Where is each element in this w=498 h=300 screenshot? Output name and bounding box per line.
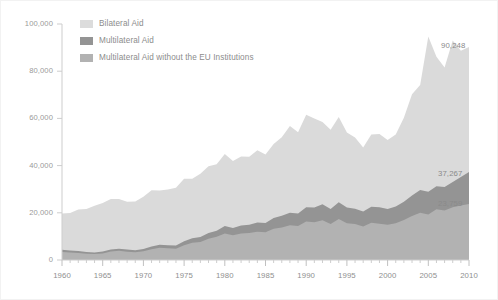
x-tick-label: 2005 bbox=[408, 271, 448, 280]
area-layers bbox=[62, 37, 469, 260]
legend-swatch-bilateral-aid bbox=[80, 20, 93, 28]
x-tick-label: 1975 bbox=[164, 271, 204, 280]
y-tick-label: 80,000 bbox=[1, 66, 53, 75]
value-label-multilateral: 37,267 bbox=[438, 169, 462, 178]
legend-item-multilateral-aid: Multilateral Aid bbox=[80, 34, 254, 47]
x-tick-label: 1990 bbox=[286, 271, 326, 280]
x-tick-label: 1970 bbox=[123, 271, 163, 280]
x-tick-label: 1995 bbox=[327, 271, 367, 280]
legend-swatch-multilateral-aid-without-eu bbox=[80, 54, 93, 62]
value-label-multilateral-no-eu: 23,759 bbox=[438, 199, 462, 208]
legend-label-multilateral-aid: Multilateral Aid bbox=[99, 36, 154, 46]
legend-item-multilateral-aid-without-eu: Multilateral Aid without the EU Institut… bbox=[80, 51, 254, 64]
legend-swatch-multilateral-aid bbox=[80, 37, 93, 45]
y-tick-label: 40,000 bbox=[1, 161, 53, 170]
y-tick-label: 20,000 bbox=[1, 208, 53, 217]
x-axis-major-ticks bbox=[62, 260, 469, 266]
x-tick-label: 1965 bbox=[83, 271, 123, 280]
y-axis-ticks bbox=[57, 24, 62, 260]
y-tick-label: 60,000 bbox=[1, 113, 53, 122]
x-tick-label: 1985 bbox=[246, 271, 286, 280]
legend-label-bilateral-aid: Bilateral Aid bbox=[99, 19, 144, 29]
legend-item-bilateral-aid: Bilateral Aid bbox=[80, 17, 254, 30]
x-tick-label: 2000 bbox=[368, 271, 408, 280]
y-tick-label: 0 bbox=[1, 255, 53, 264]
value-label-total: 90,248 bbox=[441, 41, 465, 50]
chart-figure: Bilateral Aid Multilateral Aid Multilate… bbox=[0, 0, 498, 300]
y-tick-label: 100,000 bbox=[1, 19, 53, 28]
x-tick-label: 2010 bbox=[449, 271, 489, 280]
chart-legend: Bilateral Aid Multilateral Aid Multilate… bbox=[80, 17, 254, 64]
x-tick-label: 1960 bbox=[42, 271, 82, 280]
x-tick-label: 1980 bbox=[205, 271, 245, 280]
legend-label-multilateral-aid-without-eu: Multilateral Aid without the EU Institut… bbox=[99, 53, 254, 63]
